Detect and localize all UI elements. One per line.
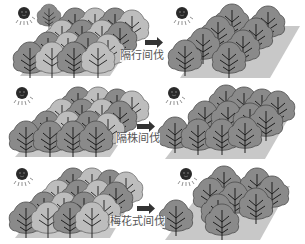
sun-icon	[178, 168, 197, 186]
row-thinning-row: 隔行间伐	[0, 0, 305, 81]
sun-icon	[174, 7, 193, 25]
arrow-right-icon	[137, 203, 155, 214]
method-label: 隔株间伐	[116, 133, 160, 145]
tree-thinning-illustration	[0, 81, 305, 162]
tree-thinning-row: 隔株间伐	[0, 81, 305, 162]
arrow-right-icon	[137, 121, 155, 132]
quincunx-thinning-row: 梅花式间伐	[0, 162, 305, 243]
sun-icon	[14, 168, 33, 186]
quincunx-thinning-illustration	[0, 162, 305, 244]
row-thinning-illustration	[0, 0, 305, 81]
method-label: 梅花式间伐	[110, 216, 165, 228]
sun-icon	[14, 87, 33, 105]
method-label: 隔行间伐	[120, 50, 164, 62]
sun-icon	[166, 87, 185, 105]
sun-icon	[16, 7, 35, 25]
arrow-right-icon	[145, 37, 163, 48]
